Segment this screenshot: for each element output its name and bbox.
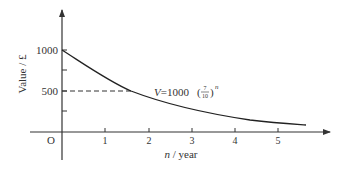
x-axis-label: n / year xyxy=(165,148,198,160)
svg-text:(: ( xyxy=(197,86,201,99)
svg-text:V=1000: V=1000 xyxy=(154,86,189,98)
origin-label: O xyxy=(47,134,55,146)
svg-text:10: 10 xyxy=(202,93,208,99)
svg-text:7: 7 xyxy=(204,85,207,91)
equation-label: V=1000 ( 7 10 ) n xyxy=(154,83,219,99)
x-tick-3: 3 xyxy=(190,135,195,146)
y-axis-label: Value / £ xyxy=(16,54,28,94)
y-ticks xyxy=(62,50,67,111)
chart-canvas: 1000 500 O 1 2 3 4 5 n / year Value / £ … xyxy=(0,0,345,169)
x-tick-2: 2 xyxy=(147,135,152,146)
y-tick-500: 500 xyxy=(42,85,59,97)
x-tick-4: 4 xyxy=(233,135,238,146)
x-tick-5: 5 xyxy=(276,135,281,146)
svg-text:n: n xyxy=(215,83,219,91)
x-tick-1: 1 xyxy=(103,135,108,146)
svg-text:): ) xyxy=(210,86,214,99)
y-tick-1000: 1000 xyxy=(36,44,59,56)
